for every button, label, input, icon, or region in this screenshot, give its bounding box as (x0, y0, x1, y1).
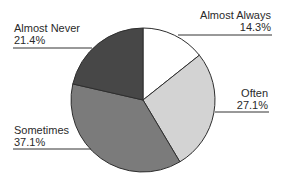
pie-chart: Almost Always 14.3% Often 27.1% Sometime… (0, 0, 284, 185)
slice-percent-text: 27.1% (237, 99, 268, 111)
label-almost-always: Almost Always 14.3% (178, 9, 272, 35)
label-almost-never: Almost Never 21.4% (13, 22, 92, 48)
slice-percent-text: 21.4% (14, 34, 45, 46)
slice-label-text: Almost Never (14, 22, 80, 34)
pie-slices (71, 28, 215, 172)
slice-percent-text: 14.3% (240, 21, 271, 33)
label-often: Often 27.1% (215, 87, 269, 112)
slice-label-text: Often (241, 87, 268, 99)
slice-label-text: Almost Always (200, 9, 271, 21)
slice-percent-text: 37.1% (14, 136, 45, 148)
slice-label-text: Sometimes (14, 124, 70, 136)
